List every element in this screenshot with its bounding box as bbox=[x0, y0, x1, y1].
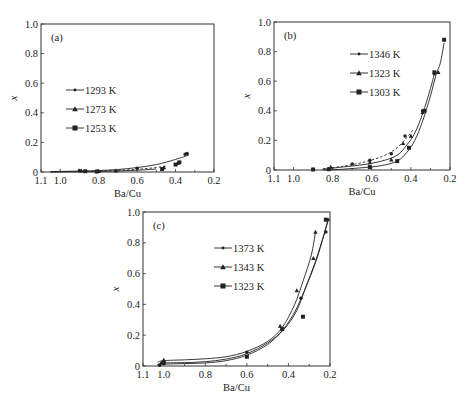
legend-label: 1343 K bbox=[233, 262, 265, 273]
chart-panel-c: 1.11.00.80.60.40.200.20.40.60.81.0Ba/Cux… bbox=[109, 207, 337, 394]
triangle-marker bbox=[311, 256, 315, 260]
x-tick-label: 1.0 bbox=[287, 173, 300, 184]
circle-marker bbox=[390, 152, 394, 156]
y-tick-label: 0.4 bbox=[258, 105, 272, 116]
y-tick-label: 0.2 bbox=[258, 135, 271, 146]
y-tick-label: 0 bbox=[33, 167, 38, 178]
x-tick-label: 0.2 bbox=[207, 175, 220, 186]
fit-curve bbox=[51, 155, 189, 172]
legend-label: 1303 K bbox=[369, 87, 401, 98]
legend-circle-icon bbox=[358, 53, 361, 56]
legend-label: 1346 K bbox=[369, 49, 401, 60]
x-axis-label: Ba/Cu bbox=[114, 188, 142, 199]
legend-label: 1293 K bbox=[85, 85, 117, 96]
legend: 1346 K1323 K1303 K bbox=[350, 49, 401, 98]
chart-panel-b: 1.11.00.80.60.40.200.20.40.60.81.0Ba/Cux… bbox=[240, 17, 457, 198]
fit-curve bbox=[323, 130, 413, 169]
square-marker bbox=[324, 218, 328, 222]
y-axis-label: x bbox=[7, 95, 19, 101]
fit-curve bbox=[323, 43, 444, 170]
triangle-marker bbox=[313, 230, 317, 234]
legend-circle-icon bbox=[74, 89, 77, 92]
legend-square-icon bbox=[220, 283, 225, 288]
y-tick-label: 0.6 bbox=[258, 76, 271, 87]
y-tick-label: 1.0 bbox=[127, 207, 140, 218]
y-tick-label: 0.8 bbox=[127, 237, 140, 248]
square-marker bbox=[301, 315, 305, 319]
panel-label: (b) bbox=[284, 30, 297, 42]
x-axis-label: Ba/Cu bbox=[349, 186, 377, 197]
y-tick-label: 0.8 bbox=[258, 46, 271, 57]
square-marker bbox=[177, 160, 181, 164]
x-axis-label: Ba/Cu bbox=[223, 382, 251, 393]
y-tick-label: 1.0 bbox=[258, 17, 271, 28]
plot-frame bbox=[41, 24, 214, 172]
x-tick-label: 0.4 bbox=[404, 173, 418, 184]
x-tick-label: 0.8 bbox=[199, 369, 212, 380]
y-tick-label: 0.6 bbox=[25, 78, 38, 89]
square-marker bbox=[174, 163, 178, 167]
square-marker bbox=[327, 167, 331, 171]
square-marker bbox=[95, 170, 99, 174]
square-marker bbox=[395, 159, 399, 163]
legend: 1373 K1343 K1323 K bbox=[214, 243, 265, 292]
x-tick-label: 0.2 bbox=[323, 369, 336, 380]
square-marker bbox=[432, 70, 436, 74]
x-tick-label: 0.6 bbox=[131, 175, 144, 186]
x-tick-label: 0.8 bbox=[92, 175, 105, 186]
square-marker bbox=[368, 165, 372, 169]
triangle-marker bbox=[295, 288, 299, 292]
square-marker bbox=[83, 169, 87, 173]
y-tick-label: 0.2 bbox=[25, 137, 38, 148]
x-tick-label: 0.8 bbox=[326, 173, 339, 184]
legend-label: 1323 K bbox=[369, 68, 401, 79]
panel-label: (a) bbox=[51, 32, 63, 44]
chart-panel-a: 1.11.00.80.60.40.200.20.40.60.81.0Ba/Cux… bbox=[7, 19, 221, 200]
triangle-marker bbox=[401, 141, 405, 145]
y-axis-label: x bbox=[109, 286, 121, 292]
y-tick-label: 0.6 bbox=[127, 268, 140, 279]
square-marker bbox=[407, 146, 411, 150]
legend-label: 1273 K bbox=[85, 104, 117, 115]
y-tick-label: 0.4 bbox=[25, 107, 39, 118]
square-marker bbox=[162, 361, 166, 365]
figure-canvas: 1.11.00.80.60.40.200.20.40.60.81.0Ba/Cux… bbox=[0, 0, 469, 400]
plot-frame bbox=[274, 22, 450, 170]
y-axis-label: x bbox=[240, 93, 252, 99]
legend-label: 1253 K bbox=[85, 123, 117, 134]
y-tick-label: 0 bbox=[135, 361, 140, 372]
x-tick-label: 0.4 bbox=[169, 175, 183, 186]
circle-marker bbox=[403, 134, 407, 138]
series-1293-k bbox=[51, 152, 189, 173]
legend-square-icon bbox=[72, 125, 77, 130]
legend-circle-icon bbox=[222, 247, 225, 250]
square-marker bbox=[245, 355, 249, 359]
x-tick-label: 0.6 bbox=[365, 173, 378, 184]
triangle-marker bbox=[389, 157, 393, 161]
y-tick-label: 0 bbox=[266, 165, 271, 176]
square-marker bbox=[423, 109, 427, 113]
square-marker bbox=[160, 167, 164, 171]
x-tick-label: 0.6 bbox=[240, 369, 253, 380]
circle-marker bbox=[185, 152, 189, 156]
x-tick-label: 1.0 bbox=[54, 175, 67, 186]
legend-label: 1373 K bbox=[233, 243, 265, 254]
x-tick-label: 0.4 bbox=[282, 369, 296, 380]
y-tick-label: 0.8 bbox=[25, 48, 38, 59]
square-marker bbox=[280, 327, 284, 331]
y-tick-label: 0.4 bbox=[127, 299, 141, 310]
square-marker bbox=[311, 168, 315, 172]
circle-marker bbox=[350, 162, 354, 166]
x-tick-label: 1.0 bbox=[157, 369, 170, 380]
panel-label: (c) bbox=[153, 220, 165, 232]
square-marker bbox=[442, 38, 446, 42]
legend-square-icon bbox=[356, 89, 361, 94]
y-tick-label: 1.0 bbox=[25, 19, 38, 30]
legend: 1293 K1273 K1253 K bbox=[66, 85, 117, 134]
fit-curve bbox=[158, 220, 328, 365]
legend-label: 1323 K bbox=[233, 281, 265, 292]
x-tick-label: 0.2 bbox=[443, 173, 456, 184]
y-tick-label: 0.2 bbox=[127, 330, 140, 341]
